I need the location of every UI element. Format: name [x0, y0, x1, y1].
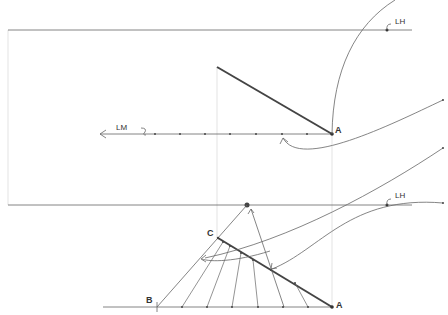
arc-from-a: [332, 0, 395, 134]
lh-label-top: LH: [395, 18, 405, 26]
line-to-vp: [251, 209, 284, 307]
bold-segment-ca: [218, 238, 332, 307]
fan-lines: [182, 242, 308, 307]
point-a-top-label: A: [335, 126, 342, 135]
top-view: [8, 0, 444, 149]
point-c-label: C: [207, 229, 214, 238]
lh-label-bottom: LH: [395, 192, 405, 200]
vp-arrow-head: [248, 209, 254, 214]
point-a-bottom-label: A: [336, 301, 343, 310]
perspective-diagram: [0, 0, 448, 315]
lm-label: LM: [116, 124, 127, 132]
bottom-view: [8, 147, 444, 312]
long-curve-lower: [272, 202, 443, 269]
line-b-to-vp: [157, 205, 247, 307]
curve-to-lm: [283, 100, 443, 149]
guide-lines: [8, 30, 332, 307]
curve-lower-arrow: [271, 263, 277, 269]
bold-segment-top: [217, 67, 332, 134]
point-a-bottom: [330, 305, 334, 309]
point-b-label: B: [146, 296, 153, 305]
